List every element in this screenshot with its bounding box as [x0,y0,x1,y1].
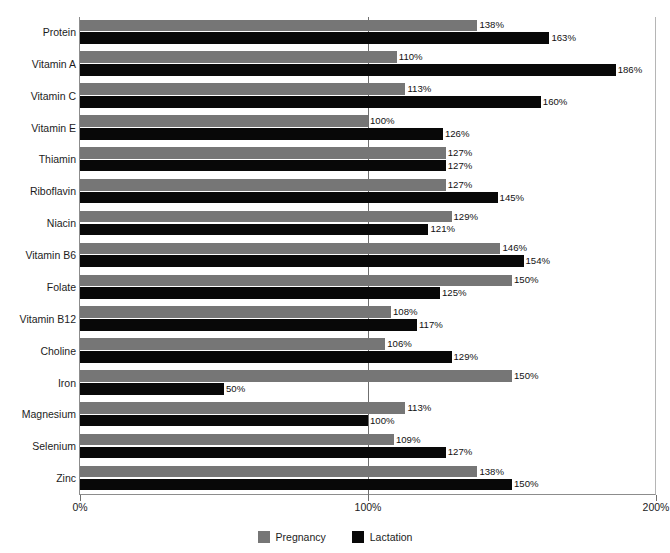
category-label: Folate [47,272,76,304]
x-tick-label: 200% [643,501,670,513]
legend-label: Lactation [370,531,413,543]
bar-lactation: 121% [80,224,428,236]
bar-value-label: 108% [393,307,418,317]
bar-lactation: 100% [80,415,368,427]
chart-row: Choline106%129% [0,336,670,368]
bar-value-label: 150% [514,276,539,286]
legend-swatch-icon [258,531,270,543]
bar-value-label: 160% [543,97,568,107]
bar-lactation: 125% [80,287,440,299]
chart-row: Selenium109%127% [0,431,670,463]
bar-value-label: 150% [514,371,539,381]
bar-pregnancy: 150% [80,275,512,287]
chart-row: Vitamin C113%160% [0,81,670,113]
category-label: Selenium [32,431,76,463]
chart-row: Protein138%163% [0,17,670,49]
category-label: Iron [58,368,76,400]
bar-value-label: 50% [226,384,245,394]
category-label: Vitamin A [32,49,76,81]
bar-value-label: 106% [387,339,412,349]
category-label: Choline [40,336,76,368]
bar-value-label: 129% [454,212,479,222]
bar-value-label: 138% [479,21,504,31]
bar-value-label: 146% [502,244,527,254]
bar-value-label: 186% [618,65,643,75]
category-label: Vitamin E [31,113,76,145]
bar-value-label: 100% [370,416,395,426]
bar-pregnancy: 113% [80,402,405,414]
bar-value-label: 127% [448,448,473,458]
x-tick-label: 100% [355,501,382,513]
bar-lactation: 127% [80,160,446,172]
chart-row: Vitamin A110%186% [0,49,670,81]
bar-value-label: 100% [370,116,395,126]
chart-row: Niacin129%121% [0,208,670,240]
chart-row: Iron150%50% [0,368,670,400]
bar-pregnancy: 110% [80,51,397,63]
x-tick-label: 0% [72,501,87,513]
legend-item[interactable]: Pregnancy [258,531,326,543]
chart-row: Vitamin E100%126% [0,113,670,145]
bar-pregnancy: 106% [80,338,385,350]
bar-lactation: 150% [80,479,512,491]
bar-pregnancy: 108% [80,306,391,318]
bar-lactation: 129% [80,351,452,363]
bar-lactation: 145% [80,192,498,204]
bar-pregnancy: 127% [80,147,446,159]
bar-value-label: 125% [442,288,467,298]
category-label: Magnesium [22,399,76,431]
chart-legend: PregnancyLactation [0,527,670,547]
bar-pregnancy: 129% [80,211,452,223]
chart-row: Riboflavin127%145% [0,176,670,208]
bar-pregnancy: 109% [80,434,394,446]
bar-value-label: 154% [526,256,551,266]
bar-value-label: 113% [407,84,431,94]
chart-rows: Protein138%163%Vitamin A110%186%Vitamin … [0,17,670,495]
bar-value-label: 110% [399,52,423,62]
legend-label: Pregnancy [276,531,326,543]
chart-row: Folate150%125% [0,272,670,304]
bar-value-label: 150% [514,480,539,490]
bar-pregnancy: 146% [80,243,500,255]
category-label: Zinc [56,463,76,495]
chart-row: Vitamin B6146%154% [0,240,670,272]
bar-value-label: 127% [448,161,473,171]
bar-lactation: 117% [80,319,417,331]
bar-value-label: 109% [396,435,421,445]
category-label: Vitamin B12 [20,304,76,336]
category-label: Protein [43,17,76,49]
bar-value-label: 129% [454,352,479,362]
bar-lactation: 154% [80,255,524,267]
x-axis-tick-labels: 0%100%200% [0,501,670,517]
bar-value-label: 163% [551,33,576,43]
bar-value-label: 117% [419,320,443,330]
bar-value-label: 113% [407,403,431,413]
category-label: Vitamin B6 [25,240,76,272]
bar-value-label: 138% [479,467,504,477]
chart-row: Magnesium113%100% [0,399,670,431]
bar-pregnancy: 127% [80,179,446,191]
category-label: Riboflavin [30,176,76,208]
chart-row: Vitamin B12108%117% [0,304,670,336]
category-label: Thiamin [39,144,76,176]
bar-pregnancy: 113% [80,83,405,95]
bar-pregnancy: 138% [80,466,477,478]
bar-lactation: 127% [80,447,446,459]
chart-row: Zinc138%150% [0,463,670,495]
bar-chart: Protein138%163%Vitamin A110%186%Vitamin … [0,0,670,553]
legend-item[interactable]: Lactation [352,531,413,543]
bar-value-label: 126% [445,129,470,139]
bar-lactation: 186% [80,64,616,76]
bar-lactation: 160% [80,96,541,108]
bar-pregnancy: 100% [80,115,368,127]
bar-lactation: 50% [80,383,224,395]
bar-pregnancy: 150% [80,370,512,382]
bar-value-label: 127% [448,148,473,158]
bar-value-label: 127% [448,180,473,190]
category-label: Vitamin C [31,81,76,113]
legend-swatch-icon [352,531,364,543]
bar-value-label: 145% [500,193,525,203]
bar-value-label: 121% [430,225,455,235]
bar-lactation: 126% [80,128,443,140]
bar-pregnancy: 138% [80,20,477,32]
